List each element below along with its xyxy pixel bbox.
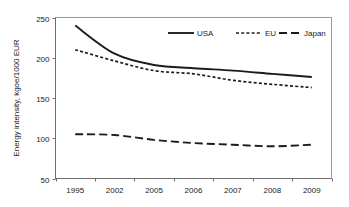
y-tick-label: 50	[41, 176, 50, 185]
x-tick-label: 2009	[303, 186, 321, 195]
chart-canvas: 50100150200250 1995200220052006200720082…	[0, 0, 349, 207]
x-tick-label: 1995	[66, 186, 84, 195]
legend-label-eu: EU	[265, 29, 276, 38]
x-tick-label: 2006	[185, 186, 203, 195]
energy-intensity-chart: 50100150200250 1995200220052006200720082…	[0, 0, 349, 207]
x-tick-label: 2008	[263, 186, 281, 195]
legend-label-usa: USA	[197, 29, 214, 38]
x-tick-label: 2002	[106, 186, 124, 195]
y-tick-label: 150	[36, 95, 50, 104]
y-axis-title: Energy intensity, kgoe/1000 EUR	[12, 39, 21, 156]
x-tick-label: 2005	[145, 186, 163, 195]
y-tick-label: 250	[36, 15, 50, 24]
chart-background	[0, 0, 349, 207]
y-tick-label: 100	[36, 135, 50, 144]
x-tick-label: 2007	[224, 186, 242, 195]
legend-label-japan: Japan	[304, 29, 326, 38]
y-tick-label: 200	[36, 55, 50, 64]
